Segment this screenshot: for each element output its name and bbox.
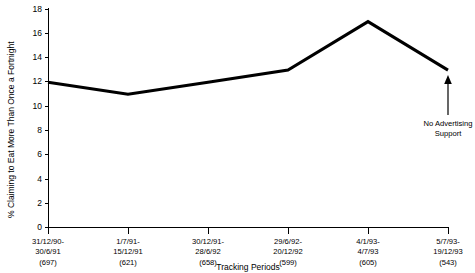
x-tick-label-2-line-1: 30/12/91- [192, 237, 225, 246]
y-tick-label-14: 14 [33, 52, 43, 62]
annotation-line-1: No Advertising [424, 119, 473, 128]
y-tick-label-2: 2 [37, 198, 42, 208]
y-tick-label-4: 4 [37, 174, 42, 184]
x-tick-label-0: 31/12/90- 30/6/91 (697) [32, 237, 65, 267]
x-tick-label-5-line-1: 5/7/93- [436, 237, 460, 246]
x-tick-label-2-line-2: 28/6/92 [195, 247, 220, 256]
x-tick-label-4-line-3: (605) [359, 258, 377, 267]
x-tick-label-5-line-3: (543) [439, 258, 457, 267]
x-tick-label-0-line-3: (697) [39, 258, 57, 267]
no-advertising-support-arrow-icon [444, 75, 452, 115]
y-tick-label-18: 18 [33, 4, 43, 14]
x-tick-label-4: 4/1/93- 4/7/93 (605) [356, 237, 380, 267]
y-tick-label-10: 10 [33, 101, 43, 111]
y-tick-label-16: 16 [33, 28, 43, 38]
x-tick-label-5: 5/7/93- 19/12/93 (543) [433, 237, 463, 267]
chart-container: % Claiming to Eat More Than Once a Fortn… [0, 0, 475, 273]
x-tick-label-1-line-3: (621) [119, 258, 137, 267]
line-chart: % Claiming to Eat More Than Once a Fortn… [0, 0, 475, 273]
y-tick-label-8: 8 [37, 125, 42, 135]
x-tick-label-3-line-3: (599) [279, 258, 297, 267]
x-tick-label-0-line-2: 30/6/91 [35, 247, 60, 256]
x-tick-label-1-line-2: 15/12/91 [113, 247, 143, 256]
y-tick-label-12: 12 [33, 76, 43, 86]
series-line-eat-more-than-once-a-fortnight [48, 22, 448, 95]
annotation-line-2: Support [435, 129, 462, 138]
y-tick-label-6: 6 [37, 149, 42, 159]
x-tick-label-2-line-3: (658) [199, 258, 217, 267]
x-tick-label-3-line-2: 20/12/92 [273, 247, 303, 256]
x-axis-ticks [49, 228, 449, 234]
y-axis-ticks [45, 10, 49, 228]
x-tick-label-0-line-1: 31/12/90- [32, 237, 65, 246]
y-axis-title: % Claiming to Eat More Than Once a Fortn… [6, 41, 16, 218]
x-tick-label-4-line-2: 4/7/93 [357, 247, 378, 256]
x-tick-label-1: 1/7/91- 15/12/91 (621) [113, 237, 143, 267]
y-tick-label-0: 0 [37, 222, 42, 232]
x-axis-title: Tracking Periods [216, 262, 279, 272]
x-tick-label-1-line-1: 1/7/91- [116, 237, 140, 246]
x-tick-label-3-line-1: 29/6/92- [274, 237, 302, 246]
x-tick-label-5-line-2: 19/12/93 [433, 247, 463, 256]
x-tick-label-4-line-1: 4/1/93- [356, 237, 380, 246]
